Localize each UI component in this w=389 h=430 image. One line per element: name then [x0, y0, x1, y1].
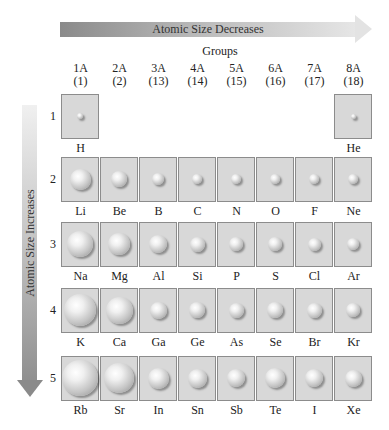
element-cell-sn	[178, 356, 216, 401]
element-symbol: O	[256, 204, 295, 219]
element-symbol: Xe	[334, 403, 373, 418]
group-number: (17)	[295, 75, 334, 88]
atom-sphere-icon	[351, 114, 356, 119]
group-header-1a: 1A(1)	[61, 62, 100, 88]
element-cell-br	[295, 288, 333, 333]
element-symbol: P	[217, 269, 256, 284]
element-cell-o	[256, 157, 294, 202]
element-symbol: K	[61, 335, 100, 350]
element-cell-i	[295, 356, 333, 401]
atom-sphere-icon	[189, 302, 205, 318]
element-symbol: Ge	[178, 335, 217, 350]
element-symbol: Br	[295, 335, 334, 350]
element-cell-he	[334, 94, 372, 139]
atom-sphere-icon	[345, 370, 362, 387]
atom-sphere-icon	[150, 302, 167, 319]
group-number: (2)	[100, 75, 139, 88]
group-number: (16)	[256, 75, 295, 88]
right-arrowhead-icon	[355, 15, 372, 43]
atom-sphere-icon	[270, 174, 280, 184]
element-cell-s	[256, 222, 294, 267]
group-number: (13)	[139, 75, 178, 88]
element-cell-as	[217, 288, 255, 333]
element-cell-n	[217, 157, 255, 202]
element-symbol: Ca	[100, 335, 139, 350]
group-header-2a: 2A(2)	[100, 62, 139, 88]
atom-sphere-icon	[67, 231, 93, 257]
atom-sphere-icon	[309, 174, 319, 184]
element-symbol: Ar	[334, 269, 373, 284]
atom-sphere-icon	[348, 174, 358, 184]
period-number-3: 3	[48, 237, 58, 252]
element-symbol: Na	[61, 269, 100, 284]
atom-sphere-icon	[152, 173, 164, 185]
element-cell-ga	[139, 288, 177, 333]
element-cell-ca	[100, 288, 138, 333]
element-cell-ne	[334, 157, 372, 202]
element-cell-si	[178, 222, 216, 267]
atom-sphere-icon	[307, 303, 322, 318]
down-arrowhead-icon	[17, 380, 43, 397]
element-cell-xe	[334, 356, 372, 401]
period-number-5: 5	[48, 371, 58, 386]
period-number-1: 1	[48, 109, 58, 124]
element-symbol: In	[139, 403, 178, 418]
element-symbol: Sr	[100, 403, 139, 418]
atom-sphere-icon	[77, 113, 83, 119]
element-symbol: Al	[139, 269, 178, 284]
atom-sphere-icon	[70, 169, 91, 190]
group-number: (14)	[178, 75, 217, 88]
element-cell-ar	[334, 222, 372, 267]
atom-sphere-icon	[62, 360, 98, 396]
group-number: (15)	[217, 75, 256, 88]
element-cell-cl	[295, 222, 333, 267]
group-header-4a: 4A(14)	[178, 62, 217, 88]
group-number: (1)	[61, 75, 100, 88]
atom-sphere-icon	[106, 297, 133, 324]
group-header-7a: 7A(17)	[295, 62, 334, 88]
atomic-size-decreases-label: Atomic Size Decreases	[60, 22, 356, 37]
element-cell-te	[256, 356, 294, 401]
atom-sphere-icon	[227, 369, 245, 387]
element-symbol: Cl	[295, 269, 334, 284]
element-symbol: H	[61, 141, 100, 156]
atom-sphere-icon	[192, 174, 202, 184]
atom-sphere-icon	[188, 369, 207, 388]
element-symbol: Se	[256, 335, 295, 350]
element-symbol: Si	[178, 269, 217, 284]
element-cell-p	[217, 222, 255, 267]
atomic-size-increases-label: Atomic Size Increases	[22, 189, 37, 296]
group-header-8a: 8A(18)	[334, 62, 373, 88]
atom-sphere-icon	[305, 369, 323, 387]
element-cell-ge	[178, 288, 216, 333]
element-cell-na	[61, 222, 99, 267]
group-header-3a: 3A(13)	[139, 62, 178, 88]
element-cell-f	[295, 157, 333, 202]
period-number-4: 4	[48, 303, 58, 318]
period-number-2: 2	[48, 172, 58, 187]
element-cell-h	[61, 94, 99, 139]
groups-title: Groups	[180, 44, 260, 59]
atom-sphere-icon	[308, 238, 321, 251]
atom-sphere-icon	[265, 368, 285, 388]
group-header-6a: 6A(16)	[256, 62, 295, 88]
element-symbol: C	[178, 204, 217, 219]
atom-sphere-icon	[108, 233, 130, 255]
element-cell-be	[100, 157, 138, 202]
element-cell-li	[61, 157, 99, 202]
atom-sphere-icon	[190, 237, 205, 252]
element-cell-sr	[100, 356, 138, 401]
element-symbol: F	[295, 204, 334, 219]
element-symbol: Sn	[178, 403, 217, 418]
element-symbol: He	[334, 141, 373, 156]
element-symbol: Li	[61, 204, 100, 219]
element-symbol: N	[217, 204, 256, 219]
atom-sphere-icon	[267, 302, 283, 318]
element-symbol: Kr	[334, 335, 373, 350]
atom-sphere-icon	[347, 238, 359, 250]
atom-sphere-icon	[149, 235, 167, 253]
element-symbol: Ne	[334, 204, 373, 219]
element-symbol: Ga	[139, 335, 178, 350]
element-symbol: Te	[256, 403, 295, 418]
atom-sphere-icon	[346, 303, 360, 317]
